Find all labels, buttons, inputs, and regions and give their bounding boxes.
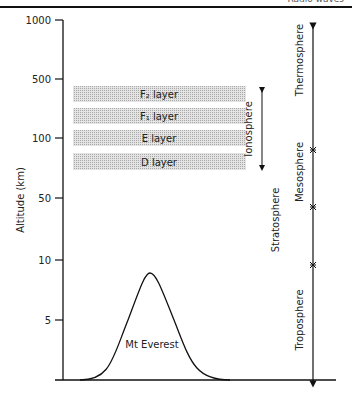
mesosphere-label: Mesosphere [294,142,305,202]
ionosphere-label: Ionosphere [243,101,254,157]
y-tick-label: 100 [32,133,51,144]
mountain-label: Mt Everest [125,339,178,350]
stratosphere-label: Stratosphere [270,188,281,253]
layer-label: E layer [142,133,177,144]
atmosphere-diagram: 100050010050105 Altitude (km) F₂ layerF₁… [0,0,352,402]
layer-label: F₂ layer [140,89,179,100]
ionosphere-layers: F₂ layerF₁ layerE layerD layer [73,86,246,170]
y-tick-label: 500 [32,74,51,85]
y-axis-label: Altitude (km) [15,167,26,233]
layer-label: D layer [141,157,178,168]
mountain-curve [80,273,230,380]
y-tick-label: 10 [38,255,51,266]
y-tick-label: 50 [38,193,51,204]
layer-label: F₁ layer [140,111,179,122]
thermosphere-label: Thermosphere [294,24,305,98]
troposphere-label: Troposphere [294,289,305,351]
y-tick-label: 1000 [26,15,51,26]
y-tick-label: 5 [45,315,51,326]
y-ticks: 100050010050105 [26,15,63,326]
